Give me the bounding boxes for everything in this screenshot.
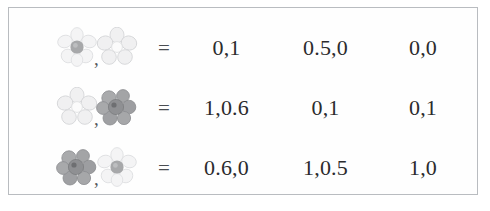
payoff-row: , = 1,0.6 0,1 0,1 bbox=[9, 78, 477, 138]
payoff-value: 0.5,0 bbox=[274, 35, 377, 61]
dark-flower-cluster-icon bbox=[96, 87, 138, 129]
icon-pair: , bbox=[9, 78, 149, 138]
payoff-row: , = 0,1 0.5,0 0,0 bbox=[9, 18, 477, 78]
payoff-value: 1,0.6 bbox=[179, 95, 274, 121]
pale-flower-gray-center-icon bbox=[96, 147, 138, 189]
payoff-value: 1,0.5 bbox=[274, 155, 377, 181]
pale-flower-white-center-icon bbox=[96, 27, 138, 69]
payoff-value: 1,0 bbox=[377, 155, 469, 181]
payoff-value: 0.6,0 bbox=[179, 155, 274, 181]
figure-frame: , = 0,1 0.5,0 0,0 bbox=[8, 7, 478, 195]
icon-pair: , bbox=[9, 138, 149, 198]
pair-separator: , bbox=[94, 169, 99, 188]
pale-flower-white-center-icon bbox=[56, 87, 98, 129]
equals-sign: = bbox=[149, 36, 179, 61]
pair-separator: , bbox=[94, 49, 99, 68]
equals-sign: = bbox=[149, 96, 179, 121]
pair-separator: , bbox=[94, 109, 99, 128]
dark-flower-cluster-icon bbox=[56, 147, 98, 189]
payoff-row: , = 0.6,0 1,0.5 1,0 bbox=[9, 138, 477, 198]
payoff-value: 0,1 bbox=[179, 35, 274, 61]
equals-sign: = bbox=[149, 156, 179, 181]
icon-pair: , bbox=[9, 18, 149, 78]
payoff-value: 0,1 bbox=[274, 95, 377, 121]
payoff-value: 0,0 bbox=[377, 35, 469, 61]
payoff-value: 0,1 bbox=[377, 95, 469, 121]
pale-flower-gray-center-icon bbox=[56, 27, 98, 69]
